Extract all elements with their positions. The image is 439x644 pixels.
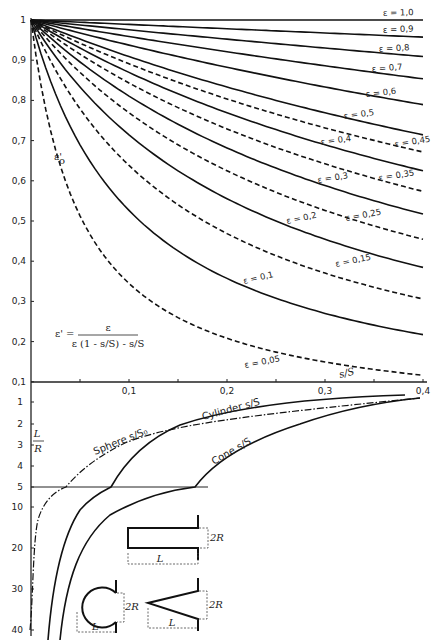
eps-label: ε = 0,4 [320, 133, 352, 147]
eps-label: ε = 0,7 [371, 61, 402, 74]
sphere-l-label: L [91, 621, 99, 632]
y-tick-label: 1 [20, 15, 26, 25]
eps-label: ε = 0,3 [317, 170, 349, 185]
cylinder-2r-label: 2R [209, 532, 224, 543]
y-tick-label: 0,9 [12, 55, 27, 65]
y-tick-label: 0,1 [12, 377, 26, 387]
formula-numerator: ε [105, 322, 110, 333]
formula-denominator: ε (1 - s/S) - s/S [72, 338, 145, 349]
sphere-2r-label: 2R [124, 601, 139, 612]
eps-label: ε = 0,15 [334, 252, 371, 269]
cone-l-label: L [168, 617, 176, 628]
x-tick-label: 0,2 [220, 386, 234, 396]
y-tick-label: 0,5 [12, 216, 26, 226]
eps-label: ε = 0,8 [378, 42, 409, 54]
x-axis-label: s/S [338, 366, 356, 380]
curve-09 [31, 20, 423, 37]
cone-2r-label: 2R [208, 599, 223, 610]
x-tick-label: 0,3 [318, 386, 332, 396]
emissivity-curves [31, 20, 423, 375]
lr-tick-label: 2 [17, 419, 23, 429]
sphere-label: Sphere s/S₀ [92, 425, 149, 457]
sphere-2r-dim [117, 593, 124, 622]
curve-02 [31, 20, 423, 267]
x-tick-label: 0,1 [122, 386, 136, 396]
lr-tick-label: 5 [17, 482, 23, 492]
cone-2r-dim [199, 591, 207, 619]
cylinder-l-label: L [156, 553, 164, 564]
y-tick-label: 0,6 [12, 176, 27, 186]
eps-label: ε = 0,25 [345, 207, 382, 223]
eps-label: ε = 0,1 [242, 269, 274, 286]
lr-tick-label: 1 [17, 397, 23, 407]
eps-label: ε = 0,9 [383, 23, 414, 35]
y-tick-label: 0,3 [12, 296, 26, 306]
sphere-curve [30, 398, 420, 630]
lr-tick-label: 4 [17, 461, 23, 471]
y-tick-label: 0,2 [12, 337, 26, 347]
lr-tick-label: 3 [17, 440, 23, 450]
cavity-shape-insets [77, 515, 208, 633]
cavity-emissivity-chart: 0,10,20,30,40,50,60,70,80,910,10,20,30,4… [0, 0, 439, 644]
curve-06 [31, 20, 423, 105]
eps-label: ε = 0,45 [394, 134, 431, 149]
eps-label: ε = 0,5 [343, 107, 375, 121]
y-tick-label: 0,7 [12, 136, 26, 146]
curve-035 [31, 20, 423, 191]
eps-label: ε = 0,2 [285, 210, 317, 226]
cavity-curves [30, 395, 420, 640]
eps-label: ε = 1,0 [383, 7, 414, 18]
cylinder-2r-dim [199, 528, 208, 548]
cone-curve [60, 398, 420, 640]
eps-label: ε = 0,6 [365, 86, 397, 99]
lr-tick-label: 20 [12, 543, 24, 553]
y-axis-label-bottom-den: R [33, 443, 42, 454]
cylinder-curve [48, 395, 405, 640]
eps-label: ε = 0,05 [244, 353, 281, 370]
cone-label: Cone s/S [210, 435, 253, 466]
y-axis-label-bottom-num: L [33, 428, 41, 439]
y-tick-label: 0,8 [12, 95, 27, 105]
lr-tick-label: 40 [12, 625, 24, 635]
eps-label: ε = 0,35 [378, 167, 415, 183]
lr-tick-label: 30 [12, 584, 24, 594]
cylinder-label: Cylinder s/S [201, 396, 261, 422]
y-tick-label: 0,4 [12, 256, 27, 266]
lr-tick-label: 10 [12, 502, 24, 512]
y-axis-label-top-sub: o [59, 155, 65, 166]
sphere-shape [82, 588, 116, 628]
x-tick-label: 0,4 [416, 386, 431, 396]
